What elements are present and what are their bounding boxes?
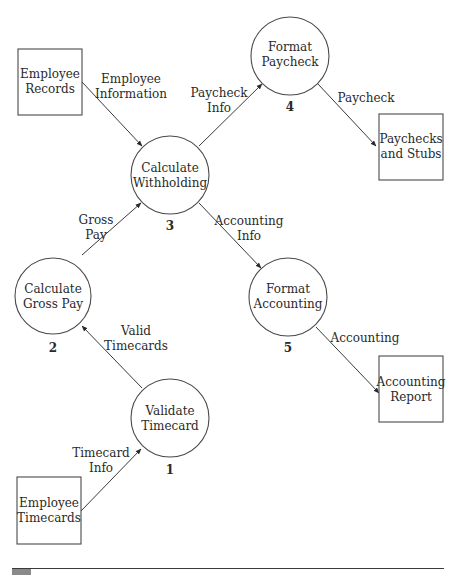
- svg-text:2: 2: [49, 341, 57, 355]
- svg-text:Accounting: Accounting: [214, 214, 284, 228]
- svg-text:5: 5: [284, 341, 292, 355]
- data-flow-diagram: Employee Information Paycheck Info Paych…: [0, 0, 457, 575]
- svg-text:Withholding: Withholding: [133, 176, 208, 190]
- svg-text:Paycheck: Paycheck: [337, 91, 395, 105]
- process-validate-timecard: Validate Timecard 1: [131, 379, 209, 477]
- svg-text:Calculate: Calculate: [24, 282, 82, 296]
- svg-text:Gross: Gross: [79, 213, 114, 227]
- svg-text:Info: Info: [89, 461, 113, 475]
- svg-text:Timecards: Timecards: [104, 339, 168, 353]
- svg-text:Paychecks: Paychecks: [379, 132, 442, 146]
- svg-text:Timecard: Timecard: [141, 419, 199, 433]
- svg-text:Format: Format: [268, 40, 312, 54]
- svg-text:Valid: Valid: [120, 324, 151, 338]
- flow-label-accounting: Accounting: [330, 331, 400, 345]
- flow-label-valid-timecards: Valid Timecards: [104, 324, 168, 353]
- svg-text:Info: Info: [207, 101, 231, 115]
- svg-text:Timecard: Timecard: [72, 446, 130, 460]
- entity-paychecks-and-stubs: Paychecks and Stubs: [379, 114, 443, 180]
- svg-text:Information: Information: [95, 87, 167, 101]
- svg-text:1: 1: [166, 463, 174, 477]
- svg-text:Employee: Employee: [20, 67, 80, 81]
- entity-employee-timecards: Employee Timecards: [17, 477, 81, 544]
- svg-text:Timecards: Timecards: [17, 511, 81, 525]
- svg-text:Gross Pay: Gross Pay: [23, 297, 83, 311]
- svg-text:Pay: Pay: [85, 228, 107, 242]
- svg-text:4: 4: [286, 100, 294, 114]
- svg-text:Report: Report: [390, 390, 432, 404]
- bottom-rule: [12, 568, 444, 575]
- process-format-paycheck: Format Paycheck 4: [251, 17, 329, 114]
- svg-text:Accounting: Accounting: [330, 331, 400, 345]
- flow-label-paycheck: Paycheck: [337, 91, 395, 105]
- svg-text:Paycheck: Paycheck: [261, 55, 319, 69]
- svg-text:3: 3: [166, 219, 174, 233]
- svg-text:Records: Records: [25, 82, 75, 96]
- svg-text:Accounting: Accounting: [253, 297, 323, 311]
- entity-accounting-report: Accounting Report: [376, 356, 446, 422]
- process-calculate-gross-pay: Calculate Gross Pay 2: [15, 258, 91, 355]
- entity-employee-records: Employee Records: [18, 49, 82, 115]
- svg-text:Validate: Validate: [144, 404, 194, 418]
- flow-label-accounting-info: Accounting Info: [214, 214, 284, 243]
- flow-label-gross-pay: Gross Pay: [79, 213, 114, 242]
- flow-label-timecard-info: Timecard Info: [72, 446, 130, 475]
- svg-text:Info: Info: [237, 229, 261, 243]
- svg-text:Employee: Employee: [19, 496, 79, 510]
- svg-text:Format: Format: [266, 282, 310, 296]
- process-format-accounting: Format Accounting 5: [249, 258, 327, 355]
- svg-text:Accounting: Accounting: [376, 375, 446, 389]
- flow-label-employee-information: Employee Information: [95, 72, 167, 101]
- svg-text:Employee: Employee: [101, 72, 161, 86]
- svg-text:Calculate: Calculate: [141, 161, 199, 175]
- svg-text:Paycheck: Paycheck: [190, 86, 248, 100]
- svg-text:and Stubs: and Stubs: [381, 147, 442, 161]
- process-calculate-withholding: Calculate Withholding 3: [131, 136, 209, 233]
- flow-label-paycheck-info: Paycheck Info: [190, 86, 248, 115]
